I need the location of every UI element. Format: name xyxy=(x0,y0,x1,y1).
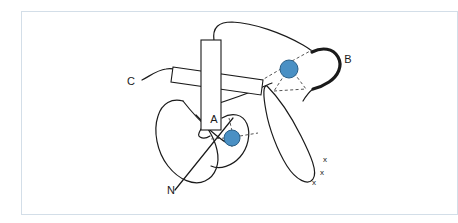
bond-upper-bottom-link xyxy=(274,89,306,91)
metal-sites-group xyxy=(224,60,298,146)
label-loop-b: B xyxy=(344,53,351,65)
label-x-mark-2: x xyxy=(320,168,324,177)
bond-upper-ne xyxy=(292,50,312,61)
label-x-mark-1: x xyxy=(323,155,327,164)
loop-b-thick xyxy=(312,49,340,89)
label-x-mark-3: x xyxy=(312,178,316,187)
protein-topology-diagram: C N A B x x x xyxy=(0,0,458,223)
label-helix-a: A xyxy=(210,113,218,125)
label-c-terminus: C xyxy=(127,75,135,87)
metal-site-lower xyxy=(224,130,240,146)
metal-site-upper xyxy=(280,60,298,78)
label-n-terminus: N xyxy=(167,184,175,196)
right-long-loop xyxy=(264,86,315,182)
labels-group: C N A B x x x xyxy=(127,53,352,196)
c-terminal-tail xyxy=(142,69,176,80)
backbone-group xyxy=(142,22,340,190)
figure-root: C N A B x x x xyxy=(0,0,458,223)
top-backbone-arc xyxy=(214,22,313,52)
loop-b-descender xyxy=(303,89,313,101)
